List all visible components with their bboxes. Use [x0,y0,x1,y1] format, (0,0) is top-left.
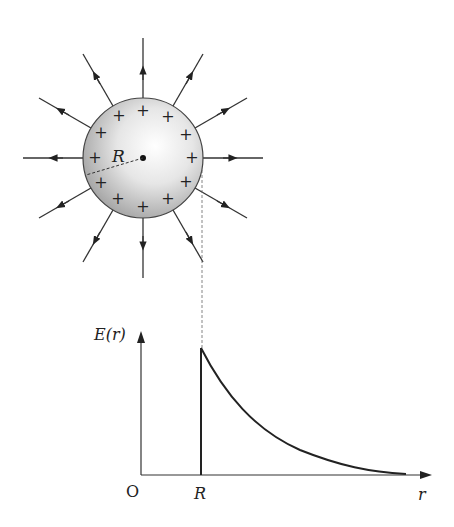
svg-text:+: + [179,172,192,191]
y-axis-arrow-icon [137,331,145,343]
radius-label: R [111,146,125,166]
x-axis-label: r [418,485,427,504]
svg-text:+: + [185,148,198,167]
graph: E(r) O R r [93,325,432,504]
r-marker-label: R [193,484,206,503]
svg-text:+: + [88,148,101,167]
y-axis-label: E(r) [93,325,126,344]
svg-text:+: + [94,123,107,142]
svg-text:+: + [136,197,149,216]
svg-text:+: + [161,189,174,208]
svg-text:+: + [94,173,107,192]
svg-text:+: + [161,107,174,126]
svg-text:+: + [136,101,149,120]
x-axis-arrow-icon [420,471,432,479]
svg-text:+: + [179,125,192,144]
svg-text:+: + [112,106,125,125]
svg-text:+: + [111,189,124,208]
origin-label: O [126,482,139,501]
diagram-canvas: + + + + + + + + + + + + R E(r) O R r [0,0,454,527]
field-curve [201,348,406,474]
